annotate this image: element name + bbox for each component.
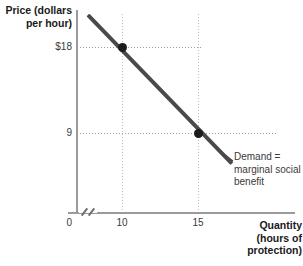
y-axis-line [76,10,78,214]
guide-line-vertical-15 [198,14,199,213]
demand-curve-label: Demand = marginal social benefit [234,151,303,189]
guide-line-horizontal-9 [77,133,277,134]
demand-curve-chart: Price (dollars per hour) Quantity (hours… [0,0,303,266]
demand-label-leader-line [216,148,233,162]
data-point-marker [118,43,127,52]
x-axis-line [68,212,295,214]
x-tick-label-15: 15 [186,217,210,228]
y-tick-label-9: 9 [26,127,72,138]
x-tick-label-10: 10 [110,217,134,228]
y-axis-title: Price (dollars per hour) [0,4,72,29]
origin-label: 0 [26,217,72,228]
demand-curve-line [87,14,234,165]
data-point-marker [194,129,203,138]
y-tick-label-18: $18 [26,41,72,52]
guide-line-horizontal-18 [77,47,201,48]
x-axis-title: Quantity (hours of protection) [203,219,302,257]
